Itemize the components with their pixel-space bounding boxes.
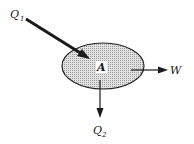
svg-text:1: 1 xyxy=(20,15,24,23)
q1-arrow xyxy=(26,19,90,59)
arrowhead-icon xyxy=(158,67,168,74)
q2-label: Q 2 xyxy=(93,124,107,139)
region-label: A xyxy=(96,61,106,74)
w-label: W xyxy=(170,64,183,77)
arrowhead-icon xyxy=(97,108,104,118)
svg-text:Q: Q xyxy=(10,8,19,21)
svg-text:Q: Q xyxy=(93,124,102,137)
svg-text:2: 2 xyxy=(101,131,107,139)
energy-diagram: A Q 1 W Q 2 xyxy=(0,0,194,144)
q1-label: Q 1 xyxy=(10,8,24,23)
